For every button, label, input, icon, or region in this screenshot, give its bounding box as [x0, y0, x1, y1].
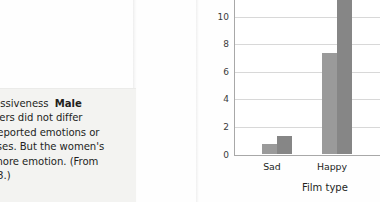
plot-area: 0246810 — [234, 0, 380, 156]
scanned-page-background: xpressiveness Male riewers did not diffe… — [0, 0, 380, 202]
bar-chart: 0246810 Sad Happy Film type — [196, 0, 380, 202]
gridline-0 — [235, 155, 380, 156]
y-tick-label-0: 0 — [223, 150, 229, 160]
bar-sad-series-1 — [262, 144, 277, 154]
gridline-10 — [235, 17, 380, 18]
x-tick-label-sad: Sad — [263, 161, 281, 172]
y-tick-label-6: 6 — [223, 67, 229, 77]
figure-caption-text: xpressiveness Male riewers did not diffe… — [0, 97, 150, 183]
y-tick-label-8: 8 — [223, 39, 229, 49]
x-axis-label: Film type — [302, 182, 348, 193]
bar-sad-series-2 — [277, 136, 292, 154]
bar-happy-series-1 — [322, 53, 337, 154]
gridline-2 — [235, 127, 380, 128]
gridline-8 — [235, 44, 380, 45]
y-tick-label-10: 10 — [218, 12, 229, 22]
y-tick-label-2: 2 — [223, 122, 229, 132]
gridline-4 — [235, 99, 380, 100]
bar-happy-series-2 — [337, 0, 352, 154]
gridline-6 — [235, 72, 380, 73]
x-tick-label-happy: Happy — [317, 161, 347, 172]
y-tick-label-4: 4 — [223, 94, 229, 104]
caption-bold-term: Male — [55, 98, 82, 109]
